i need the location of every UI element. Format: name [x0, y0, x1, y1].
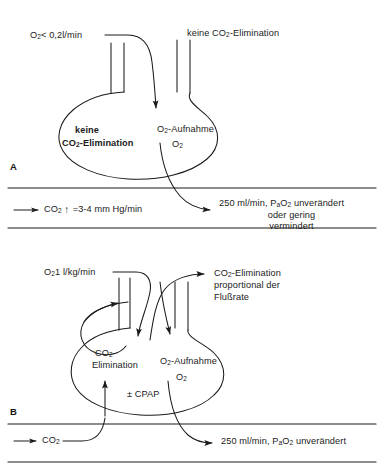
panel-b-outflow-top-line1: CO2-Elimination	[214, 268, 281, 280]
panel-a-lung-right-label-line2: O2	[172, 139, 183, 151]
panel-a-letter: A	[10, 161, 17, 172]
panel-a-o2-inflow-arrow	[105, 35, 156, 108]
panel-a-inflow-right-label: keine CO2-Elimination	[187, 28, 279, 40]
panel-a-lung-right-label-line1: O2-Aufnahme	[157, 124, 214, 136]
panel-a-lung-left-label-line1: keine	[75, 125, 99, 137]
panel-b-lung-right-label-line2: O2	[176, 372, 187, 384]
panel-b-cpap-label: ± CPAP	[127, 389, 160, 401]
panel-a-o2-outflow-arrow	[160, 143, 210, 210]
panel-b-lung-left-label-line2: Elimination	[92, 360, 138, 372]
panel-b-letter: B	[10, 406, 17, 417]
panel-b-co2-outflow-arrow	[150, 274, 204, 340]
diagram-lines	[0, 0, 384, 472]
panel-b-co2-inflow-line	[63, 418, 105, 441]
panel-b-inflow-co2-label: CO2	[42, 435, 60, 447]
panel-b-lung-outline	[71, 328, 224, 415]
panel-b-outflow-top-line2: proportional der	[214, 280, 280, 292]
panel-a-outflow-o2-line2: oder gering	[219, 210, 364, 222]
panel-b-recirculation-arrow	[84, 303, 118, 322]
figure-container: A O2< 0,2l/min keine CO2-Elimination kei…	[0, 0, 384, 472]
increase-arrow-icon: ↑	[65, 205, 69, 214]
panel-a-lung-left-label-line2: CO2-Elimination	[62, 138, 134, 150]
panel-a-outflow-o2-line1: 250 ml/min, PaO2 unverändert	[219, 198, 344, 210]
panel-a-outflow-co2-label: CO2 ↑ =3-4 mm Hg/min	[44, 204, 142, 216]
panel-a-inflow-left-label: O2< 0,2l/min	[30, 30, 82, 42]
panel-b-lung-left-label-line1: CO2-	[95, 348, 116, 360]
panel-b-inflow-left-label: O21 l/kg/min	[44, 267, 95, 279]
panel-b-o2-outflow-arrow	[168, 381, 212, 443]
panel-b-recirculation-loop	[81, 302, 128, 355]
panel-b-outflow-top-line3: Flußrate	[214, 292, 249, 304]
panel-a-outflow-o2-line3: vermindert	[219, 221, 364, 233]
panel-b-outflow-o2-label: 250 ml/min, PaO2 unverändert	[221, 436, 346, 448]
panel-b-lung-right-label-line1: O2-Aufnahme	[160, 356, 217, 368]
